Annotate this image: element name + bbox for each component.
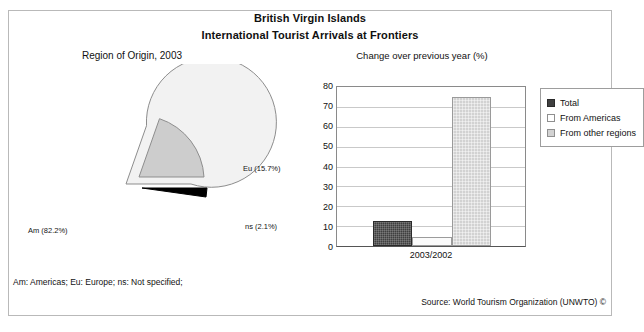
bar-from-other-regions[interactable]: [452, 97, 491, 246]
legend-swatch-total: [547, 99, 555, 107]
y-tick-10: 10: [303, 222, 333, 232]
y-tick-30: 30: [303, 182, 333, 192]
pie-chart-panel: Region of Origin, 2003 Am (82.2%) Eu (15…: [2, 50, 302, 265]
figure-title: British Virgin Islands International Tou…: [0, 10, 620, 44]
bar-from-americas[interactable]: [412, 237, 451, 246]
abbreviation-footnote: Am: Americas; Eu: Europe; ns: Not specif…: [13, 277, 183, 287]
legend-item-from-other-regions[interactable]: From other regions: [547, 125, 636, 140]
legend-label-from-americas: From Americas: [560, 113, 621, 123]
y-tick-40: 40: [303, 162, 333, 172]
x-tick-label-period: 2003/2002: [336, 250, 526, 260]
bar-chart-legend: Total From Americas From other regions: [540, 88, 644, 147]
y-tick-50: 50: [303, 141, 333, 151]
y-tick-80: 80: [303, 81, 333, 91]
pie-label-ns: ns (2.1%): [245, 222, 277, 231]
bar-group-2003-2002: [337, 87, 525, 246]
y-tick-70: 70: [303, 101, 333, 111]
bar-chart-panel: Change over previous year (%) 0 10 20 30…: [300, 50, 612, 275]
legend-swatch-from-americas: [547, 114, 555, 122]
bar-chart-y-axis: 0 10 20 30 40 50 60 70 80: [300, 86, 333, 247]
y-tick-0: 0: [303, 242, 333, 252]
y-tick-60: 60: [303, 121, 333, 131]
pie-label-eu: Eu (15.7%): [243, 164, 281, 173]
y-tick-20: 20: [303, 202, 333, 212]
legend-label-from-other-regions: From other regions: [560, 128, 636, 138]
pie-slice-ns: [142, 188, 207, 197]
source-note: Source: World Tourism Organization (UNWT…: [421, 297, 606, 307]
bar-chart-title: Change over previous year (%): [322, 50, 522, 61]
pie-chart-title: Region of Origin, 2003: [2, 50, 262, 61]
title-line-1: British Virgin Islands: [0, 10, 620, 27]
legend-swatch-from-other-regions: [547, 129, 555, 137]
pie-label-am: Am (82.2%): [28, 226, 68, 235]
legend-item-total[interactable]: Total: [547, 95, 636, 110]
title-line-2: International Tourist Arrivals at Fronti…: [0, 27, 620, 44]
legend-item-from-americas[interactable]: From Americas: [547, 110, 636, 125]
legend-label-total: Total: [560, 98, 579, 108]
bar-total[interactable]: [373, 221, 412, 246]
bar-chart-plot-area: [336, 86, 526, 247]
